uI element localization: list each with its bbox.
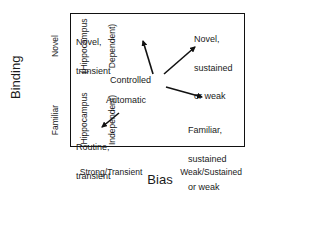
arrow-to-novel-sustained [164,47,195,74]
x-axis-title: Bias [130,173,190,187]
x-tick-weak: Weak/Sustained (PFC Dependent) [168,149,254,195]
arrow-to-familiar-sustained [166,87,202,97]
arrow-to-novel-transient [143,41,153,74]
arrow-to-routine-transient [102,113,119,127]
x-tick-strong: Strong/Transient (PFC Independent) [68,149,154,195]
